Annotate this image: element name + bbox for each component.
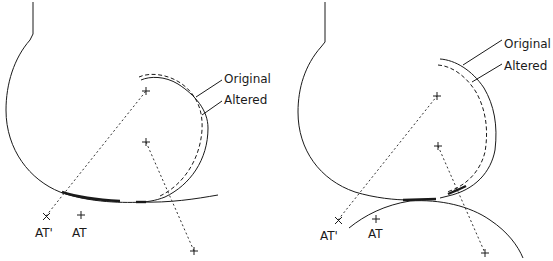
right-contact-thick-2 bbox=[448, 186, 466, 194]
right-dotted-line-1 bbox=[338, 96, 437, 220]
right-original-loop bbox=[440, 59, 496, 198]
right-altered-label: Altered bbox=[504, 59, 547, 73]
right-original-leader bbox=[463, 40, 502, 65]
left-at-label: AT bbox=[72, 226, 87, 240]
left-center-mark-mid bbox=[142, 138, 150, 146]
left-altered-loop bbox=[139, 74, 202, 196]
right-at-label: AT bbox=[368, 227, 383, 241]
left-at-mark bbox=[77, 211, 85, 219]
right-at-mark bbox=[372, 215, 380, 223]
left-center-mark-top bbox=[142, 87, 150, 95]
left-original-leader bbox=[196, 80, 222, 97]
right-dotted-line-2 bbox=[438, 146, 485, 253]
diagram-canvas: Original Altered AT' AT bbox=[0, 0, 553, 261]
right-center-mark-bottom bbox=[481, 249, 489, 257]
right-altered-leader bbox=[472, 64, 502, 82]
right-outer-profile bbox=[298, 2, 410, 200]
right-center-mark-mid bbox=[434, 142, 442, 150]
left-panel: Original Altered AT' AT bbox=[6, 2, 271, 255]
right-altered-loop bbox=[438, 65, 487, 192]
right-at-prime-label: AT' bbox=[320, 229, 338, 243]
left-altered-leader bbox=[202, 101, 222, 115]
left-original-label: Original bbox=[224, 72, 271, 86]
left-altered-label: Altered bbox=[224, 93, 267, 107]
right-original-label: Original bbox=[504, 37, 551, 51]
right-at-prime-mark bbox=[335, 217, 342, 224]
left-center-mark-bottom bbox=[190, 247, 198, 255]
left-outer-profile bbox=[6, 2, 145, 202]
left-dotted-line-1 bbox=[46, 91, 146, 216]
left-at-prime-mark bbox=[43, 213, 50, 220]
left-at-prime-label: AT' bbox=[35, 226, 53, 240]
left-dotted-line-2 bbox=[146, 142, 194, 251]
right-panel: Original Altered AT' AT bbox=[298, 2, 551, 258]
right-contact-thick bbox=[403, 199, 436, 200]
